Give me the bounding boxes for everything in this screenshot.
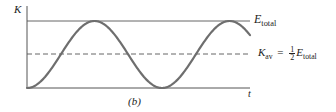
etotal-subscript: total bbox=[261, 19, 276, 28]
fraction-denominator: 2 bbox=[289, 54, 295, 61]
kav-subscript: av bbox=[265, 52, 272, 61]
etotal-label: Etotal bbox=[254, 12, 276, 28]
kav-equals: = bbox=[277, 46, 283, 58]
kav-label: Kav = 12Etotal bbox=[258, 46, 317, 61]
kav-rhs-subscript: total bbox=[303, 52, 317, 61]
kinetic-energy-curve bbox=[27, 21, 250, 88]
x-axis-label: t bbox=[248, 88, 251, 99]
panel-label: (b) bbox=[128, 95, 141, 107]
kav-fraction: 12 bbox=[289, 46, 295, 61]
y-axis-label: K bbox=[14, 3, 21, 15]
panel-label-text: (b) bbox=[128, 95, 141, 107]
